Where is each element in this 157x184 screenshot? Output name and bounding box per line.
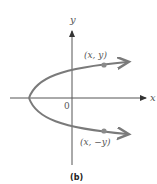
point-label-x-neg-y: (x, −y)	[80, 137, 111, 147]
point-x-y	[101, 62, 106, 67]
y-axis-label: y	[69, 14, 76, 25]
figure-caption: (b)	[70, 173, 83, 182]
parabola-lower-branch	[29, 98, 127, 134]
point-label-x-y: (x, y)	[84, 50, 107, 60]
point-x-neg-y	[101, 128, 106, 133]
parabola-upper-branch	[29, 62, 127, 98]
x-axis-label: x	[150, 92, 156, 103]
parabola-diagram: y x 0 (x, y) (x, −y) (b)	[0, 0, 157, 184]
origin-label: 0	[64, 101, 70, 111]
